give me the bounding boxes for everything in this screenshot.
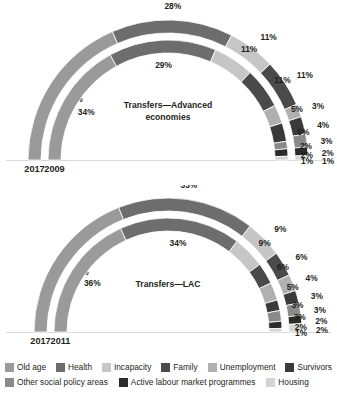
legend-row-2: Other social policy areasActive labour m… — [5, 377, 332, 387]
segment-value-label: 4% — [317, 120, 330, 130]
legend-item-housing[interactable]: Housing — [266, 377, 308, 387]
semicircle-chart-lac: 38%33%9%6%4%3%3%2%2%201736%34%9%6%5%3%3%… — [0, 185, 337, 355]
segment-value-label: 5% — [291, 104, 304, 114]
year-label-2017: 2017 — [24, 164, 44, 174]
legend-label: Other social policy areas — [17, 377, 108, 387]
segment-value-label: 3% — [314, 305, 327, 315]
segment-value-label: 34% — [170, 238, 187, 248]
legend-label: Unemployment — [220, 362, 276, 372]
segment-value-label: 11% — [260, 32, 277, 42]
legend-swatch-icon — [56, 363, 65, 372]
segment-value-label: 2% — [316, 325, 329, 335]
segment-value-label: 4% — [306, 273, 319, 283]
legend-row-1: Old ageHealthIncapacityFamilyUnemploymen… — [5, 362, 332, 372]
legend-label: Health — [68, 362, 92, 372]
segment-value-label: 5% — [297, 127, 310, 137]
legend-item-active-labour-market-programmes[interactable]: Active labour market programmes — [119, 377, 256, 387]
legend-item-incapacity[interactable]: Incapacity — [102, 362, 151, 372]
arc-segment — [270, 123, 287, 143]
arc-segment — [269, 328, 282, 332]
chart-panel-advanced-economies: 37%28%11%11%3%4%3%2%1%201734%29%11%11%5%… — [0, 0, 337, 185]
segment-value-label: 33% — [180, 185, 197, 190]
segment-value-label: 1% — [322, 156, 335, 166]
segment-value-label: 6% — [295, 252, 308, 262]
year-label-2017: 2017 — [30, 336, 50, 346]
arc-segment — [267, 310, 281, 322]
legend-item-unemployment[interactable]: Unemployment — [208, 362, 276, 372]
legend-label: Incapacity — [114, 362, 151, 372]
segment-value-label: 28% — [164, 1, 181, 11]
segment-value-label: 36% — [84, 278, 101, 288]
legend-swatch-icon — [119, 378, 128, 387]
legend-label: Family — [173, 362, 197, 372]
segment-value-label: 11% — [297, 70, 314, 80]
segment-value-label: 1% — [301, 156, 314, 166]
ring-outer-2017: 38%33%9%6%4%3%3%2%2% — [34, 185, 329, 335]
legend-label: Old age — [17, 362, 46, 372]
year-label-2011: 2011 — [51, 336, 71, 346]
segment-value-label: 11% — [241, 44, 258, 54]
legend-swatch-icon — [5, 378, 14, 387]
segment-value-label: 29% — [155, 60, 172, 70]
panel-title: Transfers—LAC — [136, 279, 201, 289]
semicircle-chart-advanced-economies: 37%28%11%11%3%4%3%2%1%201734%29%11%11%5%… — [0, 0, 337, 185]
legend-label: Housing — [278, 377, 308, 387]
segment-value-label: 6% — [277, 262, 290, 272]
segment-value-label: 9% — [274, 224, 287, 234]
segment-value-label: 11% — [274, 75, 291, 85]
legend-swatch-icon — [102, 363, 111, 372]
legend-item-old-age[interactable]: Old age — [5, 362, 46, 372]
year-label-2009: 2009 — [44, 164, 64, 174]
segment-value-label: 1% — [295, 328, 308, 338]
legend-swatch-icon — [285, 363, 294, 372]
chart-panel-lac: 38%33%9%6%4%3%3%2%2%201736%34%9%6%5%3%3%… — [0, 185, 337, 355]
chart-legend: Old ageHealthIncapacityFamilyUnemploymen… — [0, 358, 337, 392]
legend-item-survivors[interactable]: Survivors — [285, 362, 332, 372]
segment-value-label: 34% — [78, 107, 95, 117]
panel-title: Transfers—Advanced — [124, 100, 212, 110]
arc-segment — [275, 156, 288, 160]
panel-title: economies — [146, 112, 191, 122]
legend-item-family[interactable]: Family — [161, 362, 197, 372]
legend-swatch-icon — [5, 363, 14, 372]
segment-value-label: 3% — [320, 136, 333, 146]
legend-swatch-icon — [161, 363, 170, 372]
legend-swatch-icon — [266, 378, 275, 387]
legend-label: Survivors — [297, 362, 332, 372]
legend-item-other-social-policy-areas[interactable]: Other social policy areas — [5, 377, 108, 387]
legend-label: Active labour market programmes — [131, 377, 256, 387]
legend-item-health[interactable]: Health — [56, 362, 92, 372]
arc-segment — [269, 321, 282, 329]
segment-value-label: 3% — [294, 312, 307, 322]
segment-value-label: 3% — [291, 300, 304, 310]
segment-value-label: 5% — [287, 282, 300, 292]
segment-value-label: 3% — [312, 101, 325, 111]
legend-swatch-icon — [208, 363, 217, 372]
arc-segment — [275, 149, 288, 157]
segment-value-label: 9% — [259, 238, 272, 248]
segment-value-label: 3% — [311, 291, 324, 301]
